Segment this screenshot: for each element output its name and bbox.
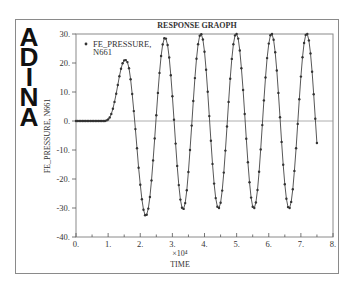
data-point [139, 184, 141, 186]
y-tick-label: 0. [64, 116, 70, 126]
data-point [189, 149, 191, 151]
data-point [158, 72, 160, 74]
data-point [293, 170, 295, 172]
data-point [154, 137, 156, 139]
data-point [226, 125, 228, 127]
data-point [218, 207, 220, 209]
data-point [152, 159, 154, 161]
data-point [142, 209, 144, 211]
data-point [298, 98, 300, 100]
data-point [260, 148, 262, 150]
data-point [263, 99, 265, 101]
x-tick-label: 1. [105, 239, 111, 249]
data-point [250, 196, 252, 198]
data-point [126, 61, 128, 63]
data-point [248, 181, 250, 183]
data-point [112, 108, 114, 110]
x-tick-label: 2. [137, 239, 143, 249]
data-point [272, 39, 274, 41]
data-point [288, 207, 290, 209]
data-point [255, 201, 257, 203]
data-point [178, 184, 180, 186]
y-tick-label: -40. [57, 232, 70, 242]
data-point [146, 214, 148, 216]
y-tick-label: -20. [57, 174, 70, 184]
data-point [280, 141, 282, 143]
x-tick-label: 0. [73, 239, 79, 249]
data-point [274, 51, 276, 53]
data-point [306, 33, 308, 35]
data-point [232, 43, 234, 45]
x-tick-label: 8. [330, 239, 336, 249]
x-tick-label: 3. [169, 239, 175, 249]
series-line [76, 34, 317, 215]
data-point [311, 71, 313, 73]
data-point [240, 67, 242, 69]
data-point [176, 165, 178, 167]
data-point [160, 55, 162, 57]
data-point [295, 147, 297, 149]
data-point [300, 75, 302, 77]
response-graph-chart: RESPONSE GRAOPH 30.20.10.0.-10.-20.-30.-… [0, 0, 353, 291]
data-point [223, 171, 225, 173]
data-point [219, 202, 221, 204]
data-point [303, 42, 305, 44]
data-point [316, 142, 318, 144]
legend-marker [85, 43, 88, 46]
data-point [113, 101, 115, 103]
data-point [237, 37, 239, 39]
data-point [150, 179, 152, 181]
data-point [173, 119, 175, 121]
data-point [129, 78, 131, 80]
legend: FE_PRESSURE, N661 [85, 39, 152, 57]
data-point [271, 33, 273, 35]
data-point [200, 33, 202, 35]
data-point [221, 189, 223, 191]
data-point [284, 183, 286, 185]
data-point [147, 207, 149, 209]
legend-entry: N661 [93, 47, 112, 57]
data-point [290, 201, 292, 203]
data-point [187, 171, 189, 173]
data-point [227, 101, 229, 103]
x-tick-label: 5. [233, 239, 239, 249]
plot-border [76, 34, 333, 237]
data-point [179, 198, 181, 200]
data-point [202, 38, 204, 40]
x-tick-label: 6. [266, 239, 272, 249]
chart-title: RESPONSE GRAOPH [157, 21, 237, 30]
data-point [264, 76, 266, 78]
data-point [125, 59, 127, 61]
data-point [215, 197, 217, 199]
y-axis: 30.20.10.0.-10.-20.-30.-40. [57, 29, 76, 242]
data-point [131, 93, 133, 95]
data-point [276, 69, 278, 71]
data-point [235, 33, 237, 35]
data-point [133, 110, 135, 112]
data-point [231, 58, 233, 60]
series-fe-pressure [75, 33, 318, 217]
data-point [239, 49, 241, 51]
y-tick-label: 20. [59, 58, 70, 68]
data-point [266, 57, 268, 59]
data-point [247, 161, 249, 163]
data-point [256, 189, 258, 191]
data-point [261, 124, 263, 126]
plot-area [76, 34, 333, 237]
data-point [137, 167, 139, 169]
data-point [309, 52, 311, 54]
data-point [229, 78, 231, 80]
data-point [277, 92, 279, 94]
x-axis: 0.1.2.3.4.5.6.7.8. [73, 233, 336, 249]
data-point [170, 74, 172, 76]
data-point [308, 39, 310, 41]
data-point [314, 118, 316, 120]
data-point [109, 116, 111, 118]
y-tick-label: -10. [57, 145, 70, 155]
data-point [191, 124, 193, 126]
data-point [285, 198, 287, 200]
data-point [195, 58, 197, 60]
data-point [157, 92, 159, 94]
data-point [203, 51, 205, 53]
data-point [171, 95, 173, 97]
